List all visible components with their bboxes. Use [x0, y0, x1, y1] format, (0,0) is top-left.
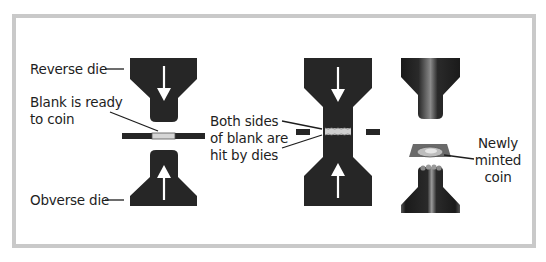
label-coin-line3: coin — [474, 169, 522, 185]
striking-dies — [296, 58, 380, 206]
obverse-die — [130, 150, 197, 206]
label-coin-line1: Newly — [474, 135, 522, 151]
label-strike-line3: hit by dies — [210, 147, 278, 163]
upper-die-shaded — [401, 58, 460, 119]
leader-line-strike-bottom — [282, 135, 322, 148]
lower-die-shaded — [401, 164, 460, 213]
label-reverse-die: Reverse die — [30, 61, 107, 77]
label-blank-line2: to coin — [30, 111, 74, 127]
leader-line-strike-top — [282, 121, 322, 129]
coin-blank — [122, 133, 205, 139]
label-blank-line1: Blank is ready — [30, 94, 123, 110]
reverse-die — [130, 58, 197, 122]
label-strike-line1: Both sides — [210, 113, 278, 129]
label-obverse-die: Obverse die — [30, 192, 109, 208]
label-coin-line2: minted — [474, 152, 522, 168]
label-strike-line2: of blank are — [210, 130, 288, 146]
